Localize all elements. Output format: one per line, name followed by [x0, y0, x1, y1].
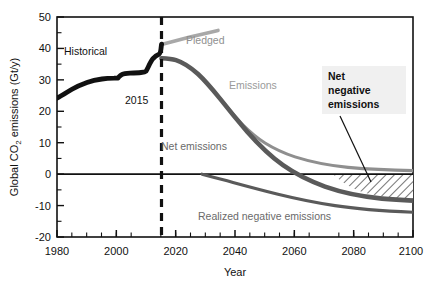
y-tick-label-20: 20 [39, 105, 51, 117]
emissions-series-label: Emissions [229, 79, 277, 91]
y-tick-label-30: 30 [39, 74, 51, 86]
net-negative-annotation-line2: negative [328, 84, 371, 96]
x-tick-label-2040: 2040 [223, 245, 247, 257]
year-2015-label: 2015 [125, 94, 149, 106]
net-negative-annotation-line1: Net [328, 70, 345, 82]
net-negative-annotation-line3: emissions [328, 98, 380, 110]
x-tick-label-2000: 2000 [104, 245, 128, 257]
y-tick-label-10: 10 [39, 137, 51, 149]
realized-negative-emissions-series-label: Realized negative emissions [198, 210, 331, 222]
emissions-line-chart: 50 40 30 20 10 0 -10 -20 [0, 0, 426, 283]
y-tick-label-minus20: -20 [35, 231, 51, 243]
y-tick-label-0: 0 [45, 168, 51, 180]
historical-series-label: Historical [64, 45, 107, 57]
x-tick-label-2060: 2060 [282, 245, 306, 257]
y-tick-label-40: 40 [39, 42, 51, 54]
y-tick-label-50: 50 [39, 11, 51, 23]
y-axis-title-post: emissions (Gt/y) [8, 58, 20, 141]
x-axis-title: Year [224, 266, 247, 278]
x-tick-label-2100: 2100 [399, 245, 423, 257]
x-tick-label-1980: 1980 [45, 245, 69, 257]
x-tick-label-2020: 2020 [163, 245, 187, 257]
chart-figure: 50 40 30 20 10 0 -10 -20 [0, 0, 426, 283]
net-emissions-series-label: Net emissions [161, 140, 227, 152]
pledged-series-label: Pledged [186, 34, 225, 46]
x-tick-label-2080: 2080 [341, 245, 365, 257]
y-tick-label-minus10: -10 [35, 200, 51, 212]
y-axis-title-pre: Global CO [8, 144, 20, 196]
